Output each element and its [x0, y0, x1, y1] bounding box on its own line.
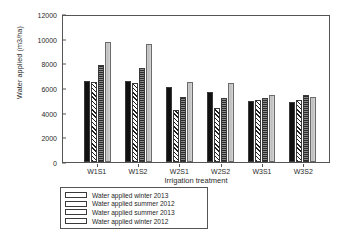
bar — [173, 110, 179, 162]
bar — [84, 81, 90, 162]
legend-label: Water applied winter 2012 — [92, 218, 168, 225]
bar — [262, 98, 268, 162]
y-axis-tick-label: 8000 — [0, 61, 62, 68]
x-axis-tick-text: W2S2 — [211, 168, 230, 175]
legend-label: Water applied summer 2013 — [92, 209, 175, 216]
legend-item: Water applied winter 2012 — [65, 217, 203, 226]
bar — [255, 100, 261, 162]
legend-swatch — [65, 209, 87, 215]
legend-item: Water applied winter 2013 — [65, 191, 203, 200]
bar — [98, 65, 104, 162]
x-axis-tick-mark — [179, 164, 180, 167]
x-axis-tick-label: W3S1 — [241, 164, 282, 176]
x-axis-tick-label: W2S2 — [200, 164, 241, 176]
bar — [180, 97, 186, 162]
legend-swatch — [65, 201, 87, 207]
x-axis-tick-mark — [303, 164, 304, 167]
bar — [105, 42, 111, 162]
y-axis-tick-label: 2000 — [0, 135, 62, 142]
y-axis-tick-label: 0 — [0, 160, 62, 167]
bar — [296, 100, 302, 162]
x-axis-tick-text: W3S2 — [294, 168, 313, 175]
x-axis-tick-text: W2S1 — [170, 168, 189, 175]
legend-label: Water applied winter 2013 — [92, 192, 168, 199]
x-axis-tick-mark — [262, 164, 263, 167]
x-axis-tick-label: W2S1 — [159, 164, 200, 176]
x-axis-tick-mark — [97, 164, 98, 167]
bar — [310, 97, 316, 162]
x-axis-tick-text: W1S1 — [87, 168, 106, 175]
y-axis-tick-label: 4000 — [0, 110, 62, 117]
bar-group — [241, 16, 282, 162]
bar-group — [200, 16, 241, 162]
bar-group — [282, 16, 323, 162]
x-axis-ticks: W1S1W1S2W2S1W2S2W3S1W3S2 — [62, 164, 330, 176]
x-axis-title: Irrigation treatment — [62, 176, 330, 185]
bar — [146, 44, 152, 162]
bar — [91, 82, 97, 162]
bar — [248, 101, 254, 162]
y-axis-tick-label: 10000 — [0, 36, 62, 43]
bar — [221, 98, 227, 162]
legend-item: Water applied summer 2013 — [65, 208, 203, 217]
figure: Water applied (m3/ha) 020004000600080001… — [0, 0, 355, 238]
x-axis-tick-label: W1S2 — [117, 164, 158, 176]
x-axis-tick-label: W1S1 — [76, 164, 117, 176]
y-axis-tick-label: 6000 — [0, 86, 62, 93]
x-axis-tick-label: W3S2 — [283, 164, 324, 176]
bar — [228, 83, 234, 162]
legend: Water applied winter 2013Water applied s… — [60, 187, 208, 229]
legend-swatch — [65, 192, 87, 198]
bar — [269, 95, 275, 162]
bar — [187, 82, 193, 162]
bar — [132, 83, 138, 162]
plot-area — [62, 15, 330, 163]
bar — [214, 108, 220, 162]
bar-group — [77, 16, 118, 162]
bar-group — [159, 16, 200, 162]
bar — [166, 87, 172, 162]
y-axis-tick-mark — [62, 113, 66, 114]
bar — [289, 102, 295, 162]
legend-swatch — [65, 218, 87, 224]
bar — [207, 92, 213, 162]
x-axis-tick-text: W1S2 — [128, 168, 147, 175]
legend-item: Water applied summer 2012 — [65, 200, 203, 209]
bar-groups — [63, 16, 329, 162]
bar — [139, 68, 145, 162]
x-axis-tick-text: W3S1 — [252, 168, 271, 175]
bar-group — [118, 16, 159, 162]
x-axis-tick-mark — [138, 164, 139, 167]
bar — [303, 95, 309, 162]
y-axis-tick-mark — [62, 15, 66, 16]
x-axis-tick-mark — [221, 164, 222, 167]
y-axis-tick-mark — [62, 64, 66, 65]
y-axis-tick-mark — [62, 89, 66, 90]
legend-label: Water applied summer 2012 — [92, 200, 175, 207]
y-axis-tick-label: 12000 — [0, 12, 62, 19]
y-axis-tick-mark — [62, 39, 66, 40]
bar — [125, 81, 131, 162]
y-axis-tick-mark — [62, 138, 66, 139]
